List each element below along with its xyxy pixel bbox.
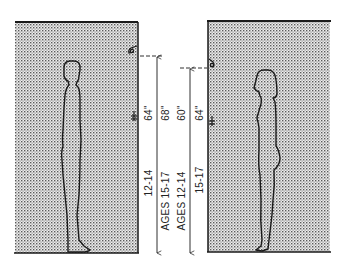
right-height-tall-label: 64" (194, 105, 205, 121)
right-height-short-label: 60" (176, 105, 187, 121)
left-wall-panel (14, 22, 139, 253)
left-stipple-wall (15, 22, 138, 253)
left-age-short-label: 12-14 (143, 169, 154, 196)
right-age-tall-label: 15-17 (194, 166, 205, 193)
left-height-short-label: 64" (143, 105, 154, 121)
left-dimension (140, 56, 162, 253)
anthropometric-diagram: 64" 68" 60" 64" 12-14 AGES 15-17 AGES 12… (0, 0, 343, 262)
left-height-tall-label: 68" (160, 105, 171, 121)
right-wall-panel (207, 21, 331, 252)
right-age-short-label: AGES 12-14 (176, 171, 187, 230)
left-age-tall-label: AGES 15-17 (160, 171, 171, 230)
right-stipple-wall (208, 21, 330, 252)
